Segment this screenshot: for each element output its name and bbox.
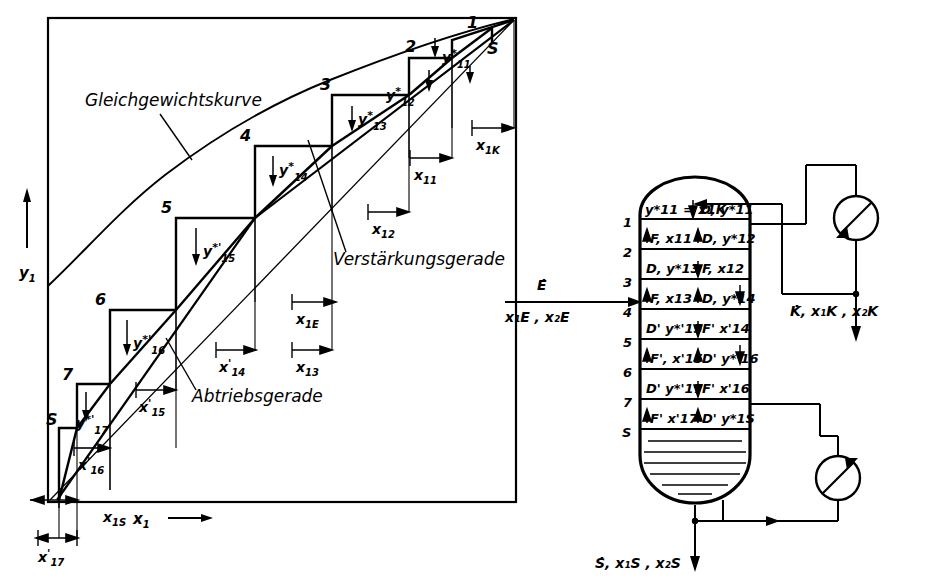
tray-text-7-right: F' x'16 [702, 381, 750, 396]
stage-label-2: 2 [405, 37, 416, 56]
bottoms-label: ̇S, x₁S , x₂S [595, 555, 681, 571]
stage-label-5: 5 [161, 198, 172, 217]
stripping-line-label: Abtriebsgerade [191, 386, 323, 406]
tray-text-2-right: D, y*12 [702, 231, 756, 246]
tray-number-7: 7 [623, 395, 633, 410]
tray-text-2-left: F, x11 [650, 231, 692, 246]
diagram-svg: y1 x1 [0, 0, 927, 584]
stage-label-1: 1 [467, 13, 478, 32]
tray-number-6: 6 [623, 365, 632, 380]
tray-text-4-left: F, x13 [650, 291, 692, 306]
tray-number-3: 3 [623, 275, 632, 290]
tray-text-S-left: F' x'17 [650, 411, 699, 426]
tray-number-1: 1 [623, 215, 632, 230]
tray-text-6-right: D' y*'16 [702, 351, 759, 366]
tray-number-2: 2 [623, 245, 632, 260]
stage-label-3: 3 [320, 75, 331, 94]
stage-label-6: 6 [95, 290, 106, 309]
feed-label-bottom: x₁E , x₂E [504, 309, 570, 325]
stage-label-4: 4 [239, 126, 251, 145]
equilibrium-curve-label: Gleichgewichtskurve [85, 90, 262, 110]
tray-text-S-right: D' y*1S [702, 411, 755, 426]
tray-number-5: 5 [623, 335, 632, 350]
tray-number-4: 4 [622, 305, 632, 320]
canvas-background [0, 0, 927, 584]
stage-label-S: S [46, 410, 58, 429]
distillate-label: ̇K, x₁K , x₂K [790, 303, 879, 319]
junction-dot-bottoms [692, 518, 698, 524]
figure-root: y1 x1 [0, 0, 927, 584]
tray-text-5-left: D' y*'15 [646, 321, 703, 336]
tray-number-S: S [622, 425, 631, 440]
rectifying-line-label: Verstärkungsgerade [333, 249, 505, 269]
tray-text-3-left: D, y*13 [646, 261, 700, 276]
tray-text-4-right: D, y*14 [702, 291, 756, 306]
stage-label-7: 7 [62, 365, 74, 384]
tray-text-3-right: F, x12 [702, 261, 744, 276]
tray-text-5-right: F' x'14 [702, 321, 750, 336]
stage-label-S-top: S [487, 39, 499, 58]
feed-label-top: ̇E [537, 277, 547, 293]
